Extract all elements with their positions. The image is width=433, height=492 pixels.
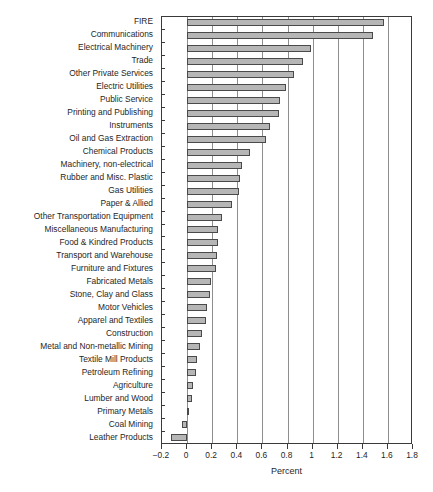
bar-row[interactable] <box>162 315 411 328</box>
y-axis-label: Other Private Services <box>69 69 153 78</box>
bar-row[interactable] <box>162 419 411 432</box>
bar-row[interactable] <box>162 406 411 419</box>
bar-row[interactable] <box>162 212 411 225</box>
bar[interactable] <box>187 97 280 104</box>
bar[interactable] <box>187 58 302 65</box>
y-axis-tick <box>161 366 165 367</box>
y-axis-label: Other Transportation Equipment <box>34 212 153 221</box>
bar[interactable] <box>187 278 211 285</box>
x-axis-tick <box>161 444 162 449</box>
bar[interactable] <box>182 421 187 428</box>
bar[interactable] <box>187 226 218 233</box>
bar-row[interactable] <box>162 380 411 393</box>
bar[interactable] <box>187 136 266 143</box>
bar[interactable] <box>187 239 218 246</box>
bar-row[interactable] <box>162 17 411 30</box>
y-axis-tick <box>161 275 165 276</box>
bar-row[interactable] <box>162 289 411 302</box>
bar[interactable] <box>187 408 189 415</box>
y-axis-label: Chemical Products <box>83 147 153 156</box>
bar-row[interactable] <box>162 160 411 173</box>
y-axis-tick <box>161 94 165 95</box>
bar[interactable] <box>187 19 384 26</box>
x-axis-tick <box>186 444 187 449</box>
y-axis-label: Apparel and Textiles <box>78 316 153 325</box>
bar-row[interactable] <box>162 147 411 160</box>
bar-row[interactable] <box>162 186 411 199</box>
y-axis-tick <box>161 146 165 147</box>
bar[interactable] <box>187 110 279 117</box>
y-axis-label: Furniture and Fixtures <box>71 264 153 273</box>
bar-row[interactable] <box>162 173 411 186</box>
y-axis-tick <box>161 42 165 43</box>
bar[interactable] <box>187 123 270 130</box>
bar-row[interactable] <box>162 69 411 82</box>
bar-row[interactable] <box>162 237 411 250</box>
bar-row[interactable] <box>162 43 411 56</box>
bar-row[interactable] <box>162 225 411 238</box>
x-axis-title: Percent <box>161 466 412 476</box>
y-axis-label: Oil and Gas Extraction <box>69 134 153 143</box>
y-axis-tick <box>161 81 165 82</box>
bar[interactable] <box>187 343 200 350</box>
bar-row[interactable] <box>162 199 411 212</box>
bar[interactable] <box>187 356 197 363</box>
bar[interactable] <box>187 201 232 208</box>
bar[interactable] <box>187 188 238 195</box>
bar-row[interactable] <box>162 263 411 276</box>
bar-row[interactable] <box>162 341 411 354</box>
bar[interactable] <box>187 149 250 156</box>
bar-row[interactable] <box>162 393 411 406</box>
x-axis-tick <box>211 444 212 449</box>
y-axis-tick <box>161 262 165 263</box>
bar[interactable] <box>187 330 202 337</box>
bar[interactable] <box>171 434 187 441</box>
bar-row[interactable] <box>162 302 411 315</box>
bar-row[interactable] <box>162 354 411 367</box>
bar[interactable] <box>187 84 286 91</box>
bar-row[interactable] <box>162 108 411 121</box>
bar[interactable] <box>187 162 242 169</box>
y-axis-tick <box>161 249 165 250</box>
bar[interactable] <box>187 175 240 182</box>
bars-layer <box>162 17 411 443</box>
y-axis-label: Paper & Allied <box>100 199 153 208</box>
bar-row[interactable] <box>162 250 411 263</box>
y-axis-tick <box>161 159 165 160</box>
y-axis-tick <box>161 379 165 380</box>
y-axis-tick <box>161 55 165 56</box>
bar-row[interactable] <box>162 367 411 380</box>
bar[interactable] <box>187 252 217 259</box>
bar-row[interactable] <box>162 121 411 134</box>
bar-row[interactable] <box>162 134 411 147</box>
bar-row[interactable] <box>162 276 411 289</box>
bar-row[interactable] <box>162 30 411 43</box>
bar[interactable] <box>187 304 207 311</box>
bar-row[interactable] <box>162 82 411 95</box>
x-axis-tick <box>412 444 413 449</box>
bar[interactable] <box>187 265 216 272</box>
bar[interactable] <box>187 382 193 389</box>
bar[interactable] <box>187 291 210 298</box>
bar[interactable] <box>187 395 192 402</box>
y-axis-tick <box>161 405 165 406</box>
y-axis-tick <box>161 68 165 69</box>
bar[interactable] <box>187 369 196 376</box>
y-axis-label: Food & Kindred Products <box>59 238 153 247</box>
y-axis-label: Rubber and Misc. Plastic <box>60 173 153 182</box>
bar[interactable] <box>187 71 294 78</box>
bar-row[interactable] <box>162 56 411 69</box>
x-axis-tick <box>312 444 313 449</box>
bar[interactable] <box>187 32 373 39</box>
y-axis-tick <box>161 211 165 212</box>
bar[interactable] <box>187 214 222 221</box>
bar[interactable] <box>187 317 206 324</box>
bar-row[interactable] <box>162 95 411 108</box>
y-axis-tick <box>161 120 165 121</box>
y-axis-tick <box>161 418 165 419</box>
bar-row[interactable] <box>162 328 411 341</box>
y-axis-tick <box>161 288 165 289</box>
y-axis-label: Leather Products <box>89 433 153 442</box>
y-axis-label: Agriculture <box>113 381 153 390</box>
bar[interactable] <box>187 45 311 52</box>
